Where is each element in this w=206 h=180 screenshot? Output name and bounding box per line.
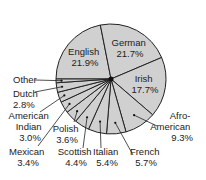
pie-chart: English 21.9% German 21.7% Irish 17.7% A… — [0, 0, 206, 180]
label-other: Other — [13, 74, 37, 85]
label-english: English 21.9% — [68, 46, 102, 68]
label-dutch: Dutch 2.8% — [13, 88, 40, 110]
leader-dot — [68, 103, 70, 105]
label-french: French 5.7% — [130, 146, 162, 168]
label-italian: Italian 5.4% — [93, 146, 121, 168]
label-american-indian: American Indian 3.0% — [9, 110, 52, 143]
label-mexican: Mexican 3.4% — [9, 146, 47, 168]
leader-dot — [99, 121, 101, 123]
leader-dot — [86, 116, 88, 118]
leader-dot — [133, 114, 135, 116]
label-scottish: Scottish 4.4% — [58, 146, 94, 168]
label-german: German 21.7% — [112, 37, 149, 59]
label-polish: Polish 3.6% — [53, 123, 82, 145]
leader-dot — [114, 122, 116, 124]
leader-dot — [76, 110, 78, 112]
leader-dot — [61, 86, 63, 88]
pie-center-hub — [109, 77, 114, 82]
leader-dot — [63, 94, 65, 96]
leader-dot — [60, 80, 62, 82]
label-afro-american: Afro- American 9.3% — [150, 110, 193, 143]
label-irish: Irish 17.7% — [132, 73, 159, 95]
